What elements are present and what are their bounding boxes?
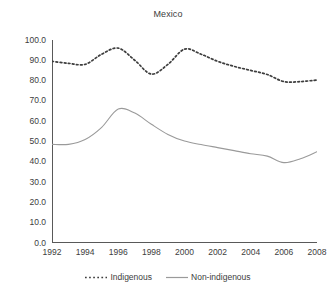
y-axis-tick-label: 90.0 bbox=[4, 56, 46, 65]
x-axis-tick-label: 2008 bbox=[297, 247, 336, 257]
x-axis-tick-labels: 199219941996199820002002200420062008 bbox=[0, 247, 336, 261]
series-line-indigenous bbox=[52, 48, 317, 82]
legend-label: Indigenous bbox=[110, 272, 152, 282]
chart-legend: IndigenousNon-indigenous bbox=[0, 272, 336, 282]
legend-entry[interactable]: Non-indigenous bbox=[166, 272, 251, 282]
y-axis-tick-label: 80.0 bbox=[4, 76, 46, 85]
chart-container: Mexico 0.010.020.030.040.050.060.070.080… bbox=[0, 0, 336, 298]
y-axis-tick-label: 70.0 bbox=[4, 96, 46, 105]
y-axis-tick-label: 20.0 bbox=[4, 198, 46, 207]
y-axis-tick-label: 30.0 bbox=[4, 178, 46, 187]
series-line-non-indigenous bbox=[52, 108, 317, 162]
y-axis-tick-label: 50.0 bbox=[4, 137, 46, 146]
legend-swatch-dotted-line-icon bbox=[85, 274, 107, 281]
y-axis-tick-label: 100.0 bbox=[4, 36, 46, 45]
plot-area bbox=[52, 40, 317, 243]
legend-swatch-solid-line-icon bbox=[166, 274, 188, 281]
legend-label: Non-indigenous bbox=[191, 272, 251, 282]
y-axis-tick-label: 10.0 bbox=[4, 218, 46, 227]
y-axis-tick-label: 60.0 bbox=[4, 117, 46, 126]
chart-title: Mexico bbox=[0, 9, 336, 19]
y-axis-tick-label: 40.0 bbox=[4, 157, 46, 166]
series-lines bbox=[52, 40, 317, 243]
legend-entry[interactable]: Indigenous bbox=[85, 272, 152, 282]
